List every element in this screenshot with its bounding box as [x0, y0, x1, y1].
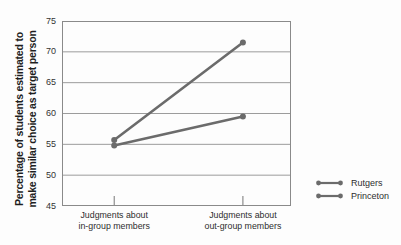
- legend-label: Princeton: [351, 191, 389, 201]
- y-tick-label: 45: [26, 201, 56, 212]
- x-axis-label: Judgments aboutin-group members: [54, 210, 174, 232]
- y-tick-label: 70: [26, 46, 56, 57]
- line-chart: Percentage of students estimated to make…: [0, 0, 401, 245]
- y-tick-label: 55: [26, 139, 56, 150]
- y-tick-label: 50: [26, 170, 56, 181]
- y-tick-label: 75: [26, 16, 56, 27]
- data-point-rutgers: [240, 40, 246, 46]
- y-axis-title-line2: make similar choice as target person: [26, 13, 39, 225]
- plot-canvas: [62, 21, 291, 206]
- data-point-princeton: [240, 114, 246, 120]
- y-tick-label: 65: [26, 77, 56, 88]
- y-axis-title-line1: Percentage of students estimated to: [13, 13, 26, 225]
- legend-marker-icon: [315, 178, 345, 188]
- series-line-rutgers: [114, 43, 243, 140]
- legend-item-princeton: Princeton: [315, 189, 389, 202]
- legend-item-rutgers: Rutgers: [315, 176, 389, 189]
- legend: RutgersPrinceton: [315, 176, 389, 202]
- legend-marker-icon: [315, 191, 345, 201]
- legend-label: Rutgers: [351, 178, 383, 188]
- data-point-rutgers: [111, 137, 117, 143]
- y-tick-label: 60: [26, 108, 56, 119]
- data-point-princeton: [111, 143, 117, 149]
- plot-area: [62, 21, 291, 206]
- x-axis-label: Judgments aboutout-group members: [183, 210, 303, 232]
- series-line-princeton: [114, 117, 243, 146]
- y-axis-title: Percentage of students estimated to make…: [13, 13, 41, 225]
